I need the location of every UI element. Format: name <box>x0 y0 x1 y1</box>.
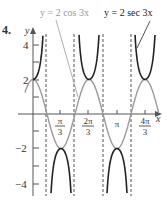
axes <box>18 30 160 196</box>
x-tick-2pi3-den: 3 <box>86 127 91 137</box>
x-tick-pi: π <box>115 119 120 129</box>
x-axis-label: x <box>155 113 161 124</box>
x-tick-2pi3-num: 2π <box>83 116 93 126</box>
y-axis-arrow-icon <box>30 27 36 34</box>
x-tick-pi3-num: π <box>58 116 63 126</box>
x-tick-4pi3-den: 3 <box>143 127 148 137</box>
asymptotes <box>46 34 131 196</box>
sec-leader-line <box>137 21 150 48</box>
y-tick-4: 4 <box>23 39 29 51</box>
graph: 4. y x 4 2 −2 −4 π 3 2π 3 <box>0 0 167 201</box>
sec-annotation: y = 2 sec 3x <box>104 7 152 18</box>
x-tick-pi3-den: 3 <box>58 127 63 137</box>
cos-annotation: y = 2 cos 3x <box>40 7 89 18</box>
x-tick-4pi3-num: 4π <box>140 116 150 126</box>
y-tick-neg2: −2 <box>15 142 27 154</box>
cos-leader-line <box>56 20 78 97</box>
y-axis-label: y <box>24 25 30 36</box>
y-tick-neg4: −4 <box>15 178 27 190</box>
problem-number: 4. <box>2 23 11 37</box>
